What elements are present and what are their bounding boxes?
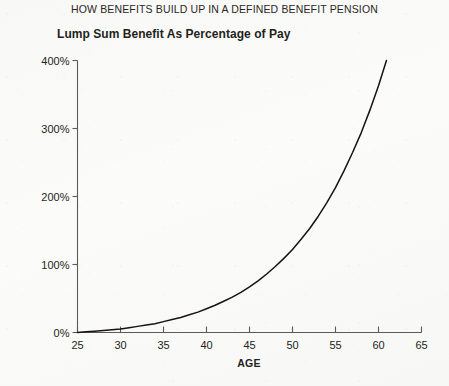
- x-tick-label: 25: [71, 339, 83, 351]
- benefit-accrual-curve: [78, 61, 387, 333]
- chart-plot-area: 0%100%200%300%400% 253035404550556065 AG…: [0, 0, 449, 386]
- x-tick-label: 55: [329, 339, 341, 351]
- x-tick-label: 60: [372, 339, 384, 351]
- x-tick-label: 35: [157, 339, 169, 351]
- y-axis-group: 0%100%200%300%400%: [41, 55, 77, 339]
- y-tick-label: 0%: [54, 327, 70, 339]
- x-tick-group: 253035404550556065: [71, 327, 427, 351]
- x-axis-title: AGE: [237, 357, 261, 369]
- y-tick-label: 200%: [41, 191, 69, 203]
- x-tick-label: 50: [286, 339, 298, 351]
- x-tick-label: 40: [200, 339, 212, 351]
- x-tick-label: 65: [415, 339, 427, 351]
- y-tick-group: 0%100%200%300%400%: [41, 55, 77, 339]
- x-axis-group: 253035404550556065: [71, 327, 427, 351]
- x-tick-label: 45: [243, 339, 255, 351]
- y-tick-label: 400%: [41, 55, 69, 67]
- y-tick-label: 300%: [41, 123, 69, 135]
- x-tick-label: 30: [114, 339, 126, 351]
- y-tick-label: 100%: [41, 259, 69, 271]
